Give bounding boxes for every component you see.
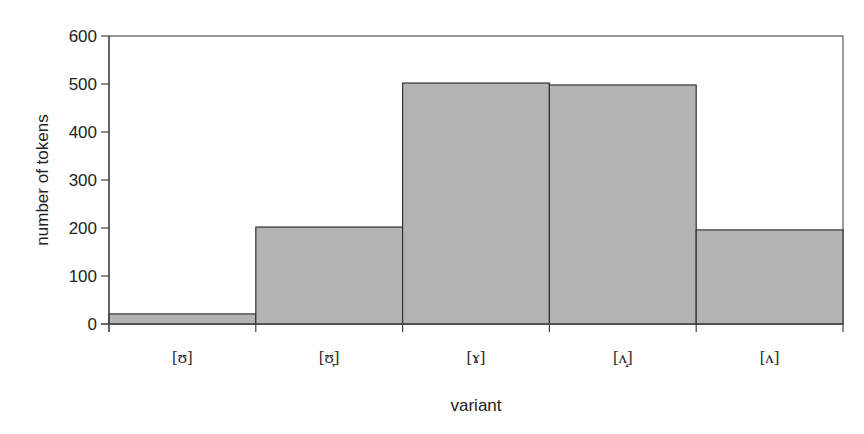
y-axis-title: number of tokens [33, 114, 52, 245]
y-tick-label: 0 [88, 315, 97, 334]
histogram-chart: 0100200300400500600 [ʊ][ʊ̞][ɤ][ʌ̝][ʌ] nu… [0, 0, 864, 434]
bar [256, 227, 403, 324]
y-tick-label: 100 [69, 267, 97, 286]
y-tick-label: 400 [69, 123, 97, 142]
plot-area [109, 36, 843, 324]
x-category-label: [ʊ̞] [319, 348, 340, 367]
x-category-label: [ɤ] [467, 348, 486, 367]
y-tick-label: 200 [69, 219, 97, 238]
bar [403, 83, 550, 324]
x-axis: [ʊ][ʊ̞][ɤ][ʌ̝][ʌ] [101, 324, 843, 367]
y-tick-label: 300 [69, 171, 97, 190]
x-axis-title: variant [450, 396, 501, 415]
y-axis: 0100200300400500600 [69, 27, 109, 334]
x-category-label: [ʌ] [760, 348, 780, 367]
y-tick-label: 500 [69, 75, 97, 94]
bar [109, 314, 256, 324]
y-tick-label: 600 [69, 27, 97, 46]
x-category-label: [ʊ] [172, 348, 193, 367]
bar [696, 230, 843, 324]
bar [549, 85, 696, 324]
x-category-label: [ʌ̝] [613, 348, 633, 367]
